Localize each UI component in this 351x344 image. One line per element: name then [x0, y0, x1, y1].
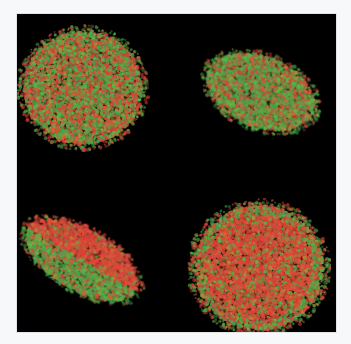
spheroid-bottom-right	[195, 206, 323, 330]
spheroid-top-left	[24, 32, 142, 144]
spheroid-top-right	[196, 39, 326, 146]
microscopy-panel	[17, 14, 336, 332]
spheroid-bottom-left	[17, 203, 151, 317]
